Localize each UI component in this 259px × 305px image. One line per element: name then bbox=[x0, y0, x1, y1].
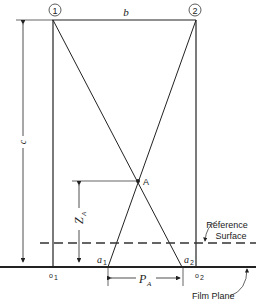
height-label: c bbox=[17, 139, 28, 144]
reference-surface-label-line2: Surface bbox=[215, 231, 246, 241]
point-a-label: A bbox=[143, 177, 149, 187]
station-2-marker: 2 bbox=[189, 4, 201, 16]
svg-text:1: 1 bbox=[103, 259, 107, 266]
svg-text:a: a bbox=[97, 254, 102, 265]
svg-text:A: A bbox=[146, 280, 152, 288]
image-point-a1-label: a 1 bbox=[97, 254, 107, 266]
svg-text:1: 1 bbox=[54, 274, 58, 281]
reference-surface-label-line1: Reference bbox=[206, 220, 248, 230]
svg-text:Z: Z bbox=[72, 217, 86, 224]
svg-text:1: 1 bbox=[52, 6, 57, 16]
station-1-marker: 1 bbox=[49, 4, 61, 16]
film-plane-label: Film Plane bbox=[192, 291, 235, 301]
svg-text:A: A bbox=[80, 211, 88, 217]
principal-point-o1-label: o 1 bbox=[49, 272, 58, 281]
image-point-a2-label: a 2 bbox=[184, 254, 194, 266]
svg-text:P: P bbox=[138, 272, 147, 286]
ray-2 bbox=[108, 20, 196, 267]
svg-text:2: 2 bbox=[192, 6, 197, 16]
svg-text:o: o bbox=[49, 272, 53, 279]
base-label: b bbox=[123, 6, 129, 18]
principal-point-o2-label: o 2 bbox=[195, 272, 204, 281]
svg-text:o: o bbox=[195, 272, 199, 279]
svg-text:a: a bbox=[184, 254, 189, 265]
parallax-diagram: 1 2 b A c Z A Reference Surface Film Pla… bbox=[0, 0, 259, 305]
svg-text:2: 2 bbox=[190, 259, 194, 266]
svg-text:2: 2 bbox=[200, 274, 204, 281]
point-a bbox=[136, 179, 140, 183]
